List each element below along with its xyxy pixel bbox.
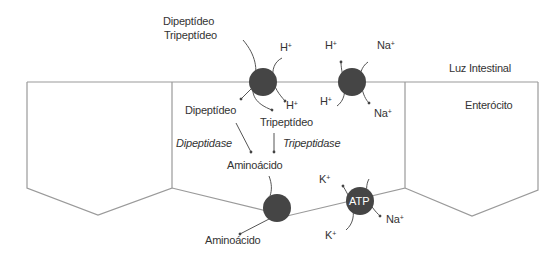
amino-acid-interstitial-label: Aminoácido <box>205 234 260 247</box>
substrate-tripeptide-label: Tripeptídeo <box>164 29 217 42</box>
h-ion-cell-label: H+ <box>286 97 298 112</box>
dipeptidase-label: Dipeptidase <box>176 137 232 150</box>
substrate-dipeptide-label: Dipeptídeo <box>163 15 214 28</box>
lumen-label: Luz Intestinal <box>449 62 511 75</box>
amino-acid-cell-label: Aminoácido <box>227 159 282 172</box>
exchanger-na-lumen-label: Na+ <box>377 37 395 52</box>
dipeptidase-arrow <box>236 123 251 152</box>
tripeptide-cell-label: Tripeptídeo <box>260 116 313 129</box>
exchanger-h-cell-label: H+ <box>320 93 332 108</box>
atp-label: ATP <box>349 195 370 207</box>
na-ion-interstitial-label: Na+ <box>386 211 404 226</box>
exchanger-h-lumen-label: H+ <box>325 37 337 52</box>
dipeptide-cell-label: Dipeptídeo <box>185 104 236 117</box>
left-cell-outline <box>27 82 172 215</box>
na-h-exchanger <box>337 62 369 106</box>
tripeptidase-label: Tripeptidase <box>283 137 340 150</box>
peptide-h-cotransporter <box>241 40 285 110</box>
k-ion-cell-label: K+ <box>319 171 330 186</box>
k-ion-interstitial-label: K+ <box>325 227 336 242</box>
exchanger-na-cell-label: Na+ <box>374 105 392 120</box>
amino-acid-transporter <box>240 176 291 234</box>
h-ion-lumen-label: H+ <box>280 39 292 54</box>
enterocyte-label: Enterócito <box>465 99 513 112</box>
